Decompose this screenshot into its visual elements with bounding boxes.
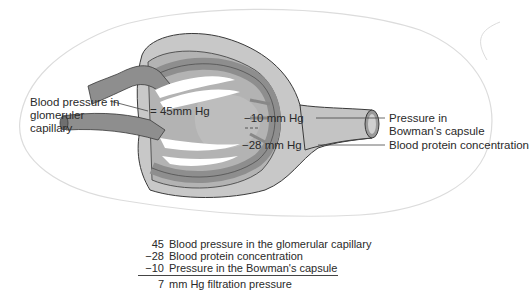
label-line: Pressure in bbox=[389, 112, 485, 125]
label-line: capillary bbox=[30, 122, 120, 135]
label-line: Blood pressure in bbox=[30, 96, 120, 109]
result-row: 7mm Hg filtration pressure bbox=[138, 278, 292, 291]
protein-value: −28 mm Hg bbox=[242, 139, 302, 152]
label-line: glomeruler bbox=[30, 109, 120, 122]
summary-row: −10Pressure in the Bowman's capsule bbox=[138, 262, 337, 275]
glomerular-bp-label: Blood pressure in glomeruler capillary bbox=[30, 96, 120, 135]
label-line: Bowman's capsule bbox=[389, 125, 485, 138]
sum-divider bbox=[138, 275, 338, 276]
capsule-value: −10 mm Hg bbox=[244, 112, 304, 125]
capsule-label: Pressure in Bowman's capsule bbox=[389, 112, 485, 138]
protein-label: Blood protein concentration bbox=[389, 139, 529, 152]
glomerular-value: = 45mm Hg bbox=[150, 105, 210, 118]
